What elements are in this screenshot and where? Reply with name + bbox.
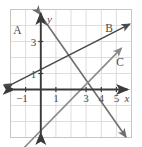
x-axis-label: x xyxy=(124,92,130,104)
graph-canvas: −1 1 3 4 5 1 3 x y A B C xyxy=(0,0,142,147)
x-tick-label-5: 5 xyxy=(114,92,120,104)
x-tick-label-1: 1 xyxy=(53,92,59,104)
x-tick-label-3: 3 xyxy=(83,92,89,104)
y-tick-label-1: 1 xyxy=(31,68,37,80)
coordinate-graph-figure: −1 1 3 4 5 1 3 x y A B C xyxy=(0,0,142,147)
y-axis-label: y xyxy=(46,13,52,25)
line-label-b: B xyxy=(105,22,113,34)
x-tick-label-4: 4 xyxy=(99,92,105,104)
y-tick-label-3: 3 xyxy=(31,36,37,48)
line-label-c: C xyxy=(116,56,124,68)
line-label-a: A xyxy=(13,24,22,36)
x-tick-label--1: −1 xyxy=(16,92,28,104)
